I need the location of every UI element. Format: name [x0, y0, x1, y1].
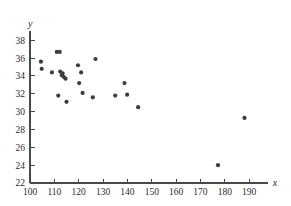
axes-group — [30, 31, 268, 183]
x-axis-tick-label: 190 — [242, 187, 257, 197]
y-axis-tick-label: 28 — [16, 125, 26, 135]
x-axis-tick-label: 100 — [23, 187, 38, 197]
data-point — [40, 67, 44, 71]
y-axis-tick-label: 38 — [16, 36, 26, 46]
data-point — [77, 81, 81, 85]
scatter-plot-figure: 1001101201301401501601701801902224262830… — [0, 0, 291, 206]
x-axis-tick-label: 130 — [96, 187, 111, 197]
data-point — [125, 93, 129, 97]
y-axis-tick-label: 30 — [16, 107, 26, 117]
data-point — [242, 116, 246, 120]
y-axis-tick-label: 22 — [16, 178, 26, 188]
data-point — [93, 57, 97, 61]
data-point — [56, 93, 60, 97]
data-point — [216, 163, 220, 167]
data-point — [113, 93, 117, 97]
y-axis-name-label: y — [27, 18, 33, 29]
y-axis-tick-label: 24 — [16, 161, 26, 171]
data-point — [81, 91, 85, 95]
data-point — [64, 100, 68, 104]
x-axis-name-label: x — [272, 177, 278, 188]
data-point — [136, 105, 140, 109]
x-axis-tick-label: 180 — [218, 187, 233, 197]
data-point — [91, 95, 95, 99]
y-axis-tick-label: 26 — [16, 143, 26, 153]
y-axis-tick-label: 34 — [16, 71, 26, 81]
data-point — [79, 70, 83, 74]
x-axis-tick-label: 170 — [193, 187, 208, 197]
data-point — [122, 81, 126, 85]
data-point — [39, 60, 43, 64]
data-point — [58, 50, 62, 54]
data-point — [63, 77, 67, 81]
data-point — [61, 71, 65, 75]
data-point — [76, 63, 80, 67]
x-axis-tick-label: 110 — [47, 187, 61, 197]
axis-tick-labels-group: 1001101201301401501601701801902224262830… — [16, 36, 257, 197]
scatter-plot-canvas: 1001101201301401501601701801902224262830… — [0, 0, 291, 206]
axis-name-labels-group: xy — [27, 18, 278, 188]
x-axis-tick-label: 140 — [120, 187, 135, 197]
x-axis-tick-label: 160 — [169, 187, 184, 197]
y-axis-tick-label: 32 — [16, 89, 26, 99]
data-point — [50, 70, 54, 74]
x-axis-tick-label: 150 — [145, 187, 160, 197]
y-axis-tick-label: 36 — [16, 54, 26, 64]
axis-ticks-group — [30, 40, 249, 183]
data-points-group — [39, 50, 247, 167]
x-axis-tick-label: 120 — [72, 187, 87, 197]
